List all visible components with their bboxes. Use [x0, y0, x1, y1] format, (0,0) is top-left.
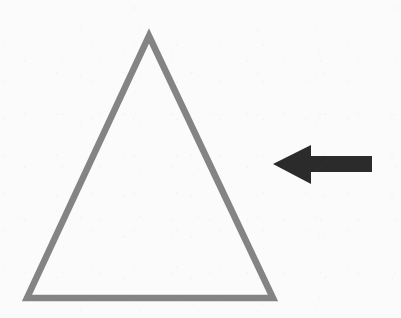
diagram-illustration	[0, 0, 401, 318]
diagram-canvas	[0, 0, 401, 318]
